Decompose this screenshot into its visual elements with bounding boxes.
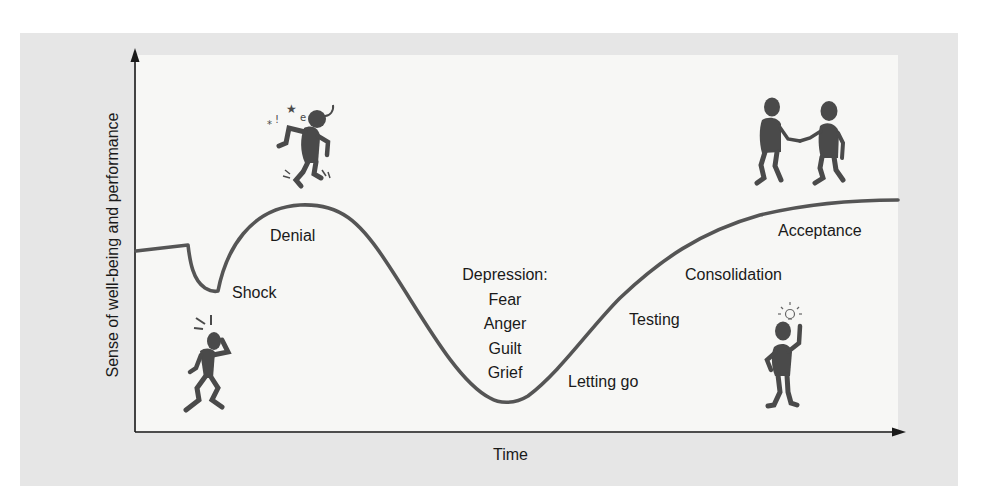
handshake-icon xyxy=(757,98,843,184)
y-axis-arrow-icon xyxy=(131,48,140,62)
stage-label-letting-go: Letting go xyxy=(568,374,638,390)
stage-label-acceptance: Acceptance xyxy=(778,223,862,239)
shocked-person-icon xyxy=(186,315,228,410)
stage-label-depression: Depression: xyxy=(450,263,560,288)
stage-label-consolidation: Consolidation xyxy=(685,267,782,283)
change-curve-diagram: ★ ! * e xyxy=(0,0,1006,502)
stage-depression-block: Depression: Fear Anger Guilt Grief xyxy=(450,263,560,386)
stage-label-testing: Testing xyxy=(629,312,680,328)
x-axis-label: Time xyxy=(493,446,528,464)
svg-text:★: ★ xyxy=(286,102,297,116)
stage-label-denial: Denial xyxy=(270,228,315,244)
svg-text:e: e xyxy=(300,112,306,123)
depression-item-guilt: Guilt xyxy=(450,337,560,362)
svg-text:*: * xyxy=(267,119,272,130)
svg-text:!: ! xyxy=(275,114,279,125)
stage-label-shock: Shock xyxy=(232,285,276,301)
x-axis xyxy=(135,428,906,437)
y-axis xyxy=(131,48,140,432)
lightbulb-person-icon xyxy=(767,302,802,406)
dizzy-person-icon: ★ ! * e xyxy=(267,102,333,186)
lightbulb-icon xyxy=(778,302,802,319)
x-axis-arrow-icon xyxy=(892,428,906,437)
depression-item-grief: Grief xyxy=(450,361,560,386)
depression-item-fear: Fear xyxy=(450,288,560,313)
depression-item-anger: Anger xyxy=(450,312,560,337)
y-axis-label: Sense of well-being and performance xyxy=(104,112,122,377)
